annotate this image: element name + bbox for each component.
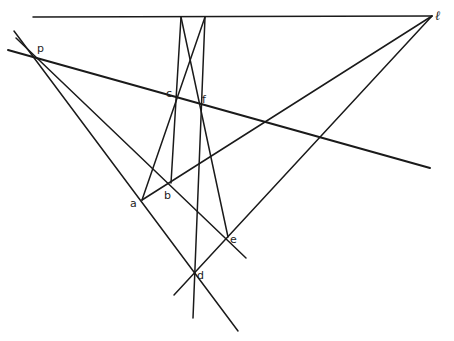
line-ac: [142, 17, 205, 200]
label-c: c: [166, 87, 172, 100]
line-pd: [14, 31, 238, 331]
label-ell: ℓ: [435, 8, 441, 23]
line-pe: [16, 38, 246, 258]
diagram-svg: p c f a b e d ℓ: [0, 0, 454, 341]
line-e-top: [181, 17, 228, 237]
label-b: b: [164, 189, 171, 202]
label-d: d: [197, 269, 204, 282]
label-a: a: [130, 197, 137, 210]
line-b-top: [171, 17, 181, 183]
line-ell: [33, 16, 432, 17]
label-p: p: [37, 42, 44, 55]
label-e: e: [230, 233, 237, 246]
label-f: f: [202, 93, 207, 106]
geometry-diagram: p c f a b e d ℓ: [0, 0, 454, 341]
